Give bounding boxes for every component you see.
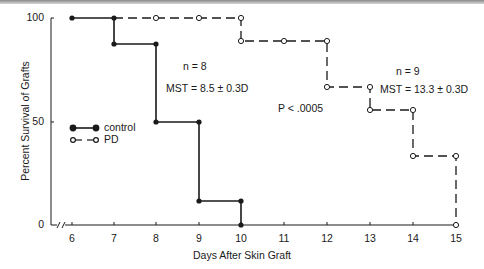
x-tick-14: 14 <box>407 232 419 244</box>
x-tick-8: 8 <box>153 232 159 244</box>
x-tick-15: 15 <box>450 232 462 244</box>
survival-chart <box>0 0 484 269</box>
axis-break-icon <box>57 222 65 228</box>
x-tick-9: 9 <box>196 232 202 244</box>
x-axis-title: Days After Skin Graft <box>193 249 291 261</box>
legend-pd-label: PD <box>104 133 119 145</box>
pd-n-annotation: n = 9 <box>396 65 420 77</box>
y-tick-100: 100 <box>14 11 44 23</box>
x-tick-7: 7 <box>111 232 117 244</box>
legend-control-label: control <box>104 121 136 133</box>
legend-pd-glyph <box>71 138 99 143</box>
x-tick-11: 11 <box>279 232 290 244</box>
y-tick-0: 0 <box>14 218 44 230</box>
control-mst-annotation: MST = 8.5 ± 0.3D <box>166 82 248 94</box>
legend-control-glyph <box>70 125 98 130</box>
x-tick-13: 13 <box>364 232 376 244</box>
x-tick-10: 10 <box>235 232 247 244</box>
pd-mst-annotation: MST = 13.3 ± 0.3D <box>380 83 468 95</box>
x-tick-12: 12 <box>321 232 333 244</box>
x-tick-6: 6 <box>69 232 75 244</box>
p-value-annotation: P < .0005 <box>278 102 323 114</box>
y-axis-title: Percent Survival of Grafts <box>19 56 31 186</box>
control-n-annotation: n = 8 <box>183 60 207 72</box>
